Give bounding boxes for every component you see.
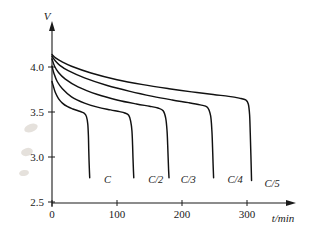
x-tick-label-0: 0 [49, 208, 55, 220]
x-axis-title: t/min [272, 212, 295, 224]
scan-smudge-artifacts [19, 122, 39, 177]
y-axis-title: V [44, 10, 52, 22]
y-tick-label-4-0: 4.0 [30, 61, 44, 73]
x-axis [52, 200, 296, 206]
y-axis-arrow-icon [49, 21, 55, 31]
discharge-curves [52, 55, 252, 181]
curve-label-C-over-3: C/3 [181, 174, 196, 185]
curve-label-C-over-5: C/5 [265, 178, 280, 189]
curve-label-C: C [104, 174, 112, 185]
curve-label-C-over-4: C/4 [228, 174, 244, 185]
x-tick-label-200: 200 [174, 208, 191, 220]
x-tick-label-300: 300 [239, 208, 256, 220]
curve-C-over-2 [52, 66, 134, 178]
curve-annotations: CC/2C/3C/4C/5 [104, 174, 280, 189]
curve-label-C-over-2: C/2 [148, 174, 164, 185]
y-axis [48, 21, 55, 207]
y-tick-label-2-5: 2.5 [30, 196, 44, 208]
chart-figure: 4.0 3.5 3.0 2.5 0 100 200 300 V t/min CC… [0, 0, 319, 234]
x-axis-arrow-icon [286, 200, 296, 206]
curve-C-over-5 [52, 55, 252, 181]
curve-C-over-3 [52, 59, 169, 178]
y-tick-label-3-0: 3.0 [30, 151, 44, 163]
y-tick-label-3-5: 3.5 [30, 106, 44, 118]
x-tick-label-100: 100 [109, 208, 126, 220]
chart-canvas: 4.0 3.5 3.0 2.5 0 100 200 300 V t/min CC… [0, 0, 319, 234]
